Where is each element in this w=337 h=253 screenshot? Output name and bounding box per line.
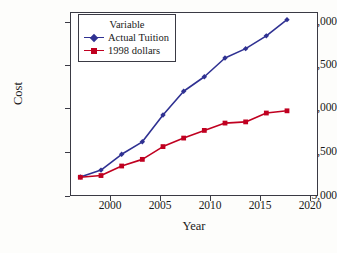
- data-point: [285, 108, 290, 113]
- x-tick-mark: [310, 196, 311, 201]
- data-point: [264, 111, 269, 116]
- x-tick-label: 2020: [287, 200, 333, 212]
- x-tick-mark: [260, 196, 261, 201]
- x-tick-label: 2010: [187, 200, 233, 212]
- series-line: [80, 111, 287, 177]
- legend-title: Variable: [84, 18, 170, 31]
- legend: Variable Actual Tuition 1998 dollars: [78, 14, 176, 62]
- x-tick-mark: [210, 196, 211, 201]
- x-tick-label: 2015: [237, 200, 283, 212]
- data-point: [181, 136, 186, 141]
- x-tick-label: 2005: [137, 200, 183, 212]
- data-point: [78, 175, 83, 180]
- data-point: [161, 144, 166, 149]
- data-point: [202, 128, 207, 133]
- data-point: [140, 157, 145, 162]
- data-point: [99, 173, 104, 178]
- y-axis-title: Cost: [11, 74, 26, 114]
- x-axis-title: Year: [70, 219, 318, 234]
- legend-swatch-1998-dollars: [84, 46, 104, 55]
- series-1998-dollars: [78, 108, 289, 179]
- data-point: [243, 119, 248, 124]
- y-tick-mark: [65, 196, 70, 197]
- legend-label-1998-dollars: 1998 dollars: [108, 44, 160, 57]
- x-tick-mark: [110, 196, 111, 201]
- legend-label-actual-tuition: Actual Tuition: [108, 31, 169, 44]
- x-tick-label: 2000: [87, 200, 133, 212]
- x-tick-mark: [160, 196, 161, 201]
- legend-item-actual-tuition[interactable]: Actual Tuition: [84, 31, 170, 44]
- legend-swatch-actual-tuition: [84, 33, 104, 42]
- legend-item-1998-dollars[interactable]: 1998 dollars: [84, 44, 170, 57]
- data-point: [119, 164, 124, 169]
- tuition-cost-line-chart: 15,000 12,500 10,000 7,500 5,000 2000 20…: [0, 0, 337, 253]
- data-point: [223, 121, 228, 126]
